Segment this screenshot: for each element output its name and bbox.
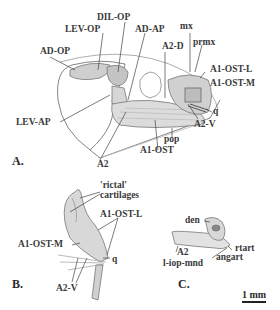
label-q: q bbox=[213, 107, 218, 117]
label-b-a2-v: A2-V bbox=[56, 284, 78, 294]
label-dil-op: DIL-OP bbox=[97, 13, 130, 23]
label-angart: angart bbox=[216, 253, 243, 263]
label-b-a1-ost-m: A1-OST-M bbox=[18, 240, 63, 250]
label-a1-ost-m: A1-OST-M bbox=[210, 79, 255, 89]
label-mx: mx bbox=[180, 22, 193, 32]
panel-c-letter: C. bbox=[178, 278, 190, 290]
label-c-a2: A2 bbox=[177, 248, 189, 258]
scale-bar: 1 mm bbox=[242, 290, 266, 303]
label-a2-d: A2-D bbox=[162, 42, 184, 52]
label-a2: A2 bbox=[97, 160, 109, 170]
label-a2-v: A2-V bbox=[194, 120, 216, 130]
label-a1-ost-l: A1-OST-L bbox=[210, 65, 252, 75]
label-l-iop-mnd: l-iop-mnd bbox=[163, 259, 203, 269]
label-ad-ap: AD-AP bbox=[135, 25, 165, 35]
label-b-a1-ost-l: A1-OST-L bbox=[100, 210, 142, 220]
panel-a-letter: A. bbox=[12, 155, 24, 167]
label-lev-ap: LEV-AP bbox=[16, 118, 51, 128]
label-b-q: q bbox=[112, 255, 117, 265]
label-cartilages: cartilages bbox=[100, 191, 139, 201]
label-ad-op: AD-OP bbox=[40, 47, 70, 57]
label-a1-ost: A1-OST bbox=[140, 146, 174, 156]
label-lev-op: LEV-OP bbox=[65, 25, 100, 35]
label-den: den bbox=[185, 216, 200, 226]
label-prmx: prmx bbox=[193, 38, 215, 48]
panel-b-letter: B. bbox=[12, 278, 23, 290]
label-pop: pop bbox=[164, 135, 179, 145]
panel-c-drawing bbox=[172, 218, 230, 249]
